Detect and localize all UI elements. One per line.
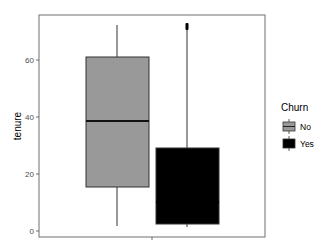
y-axis-title: tenure [12,111,23,140]
legend-label-no: No [300,122,311,132]
y-tick-0: 0 [30,227,35,236]
legend-item-no: No [283,119,311,134]
plot-panel [39,15,265,237]
legend-item-yes: Yes [283,136,314,151]
y-tick-60: 60 [25,56,34,65]
boxplot-chart: 60 40 20 0 tenure Churn No Yes [0,0,330,250]
y-tick-20: 20 [25,170,34,179]
legend-key-yes [283,139,295,148]
y-axis: 60 40 20 0 [25,56,39,236]
y-tick-40: 40 [25,113,34,122]
legend-label-yes: Yes [300,139,314,149]
legend: Churn No Yes [281,102,314,151]
legend-title: Churn [281,102,308,113]
outliers-yes [186,23,189,30]
iqr-box-yes [156,148,219,224]
